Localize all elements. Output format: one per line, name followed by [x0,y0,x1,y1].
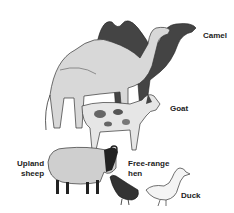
hen-label-line2: hen [128,169,142,178]
duck-label: Duck [181,191,201,200]
duck-illustration [146,168,190,206]
hen-illustration [110,175,138,205]
sheep-label-line2: sheep [21,169,44,178]
sheep-illustration [48,146,118,194]
goat-label: Goat [170,104,188,113]
sheep-label-line1: Upland [17,159,44,168]
animals-drawing [0,0,234,213]
hen-label-line1: Free-range [128,159,169,168]
animal-illustration: Camel Goat Upland sheep Free-range hen D… [0,0,234,213]
camel-label: Camel [203,31,227,40]
